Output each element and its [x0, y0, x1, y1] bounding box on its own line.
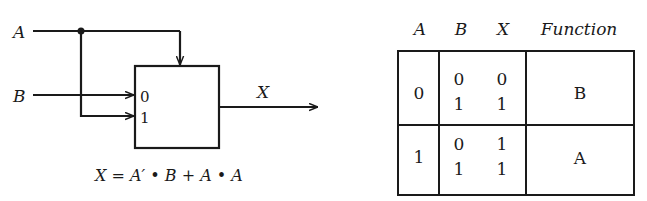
- cell-b: 1: [454, 94, 465, 114]
- cell-x: 1: [497, 134, 508, 154]
- input-b-label: B: [12, 86, 26, 106]
- cell-x: 0: [497, 69, 508, 89]
- cell-a: 1: [414, 147, 425, 167]
- cell-function: A: [573, 148, 587, 168]
- cell-b: 0: [454, 69, 465, 89]
- header-b: B: [454, 19, 468, 39]
- truth-table-grid: [398, 51, 634, 195]
- equation: X = A′ • B + A • A: [93, 166, 243, 185]
- data-input-0-label: 0: [140, 88, 150, 106]
- mux-diagram: [33, 31, 318, 148]
- input-a-label: A: [11, 22, 25, 42]
- cell-b: 1: [454, 159, 465, 179]
- mux-box: [135, 66, 219, 148]
- header-a: A: [412, 19, 426, 39]
- header-function: Function: [540, 19, 618, 39]
- junction-dot: [78, 28, 85, 35]
- cell-x: 1: [497, 159, 508, 179]
- figure: A B 0 1 X X = A′ • B + A • A A B X Funct…: [0, 0, 647, 201]
- header-x: X: [495, 19, 510, 39]
- output-x-label: X: [255, 82, 270, 102]
- cell-a: 0: [414, 83, 425, 103]
- wire-a-branch: [81, 31, 134, 116]
- cell-x: 1: [497, 94, 508, 114]
- data-input-1-label: 1: [140, 109, 150, 127]
- cell-function: B: [574, 83, 587, 103]
- cell-b: 0: [454, 134, 465, 154]
